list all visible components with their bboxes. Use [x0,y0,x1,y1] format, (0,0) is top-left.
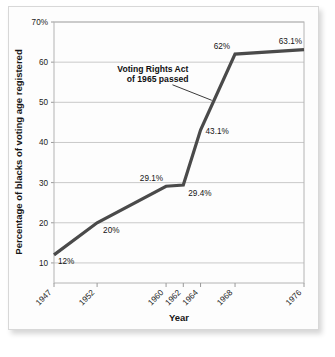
y-tick-labels-group: 10203040506070% [32,18,49,268]
chart-figure-card: 10203040506070% 194719521960196219641968… [8,6,319,330]
x-tick-label: 1952 [77,288,97,308]
y-tick-label: 30 [39,179,49,188]
plot-frame [54,22,304,283]
annotation-line-2: of 1965 passed [127,74,189,84]
data-point-label: 29.1% [140,174,163,183]
voting-registration-line-chart: 10203040506070% 194719521960196219641968… [9,7,318,329]
y-tick-label: 20 [39,219,49,228]
x-tick-marks-group [54,283,304,287]
annotation-group: Voting Rights Act of 1965 passed [117,64,211,101]
x-tick-label: 1960 [146,288,166,308]
data-point-label: 63.1% [279,37,302,46]
y-tick-label: 50 [39,98,49,107]
annotation-leader-line [172,85,211,101]
data-point-label: 43.1% [206,127,229,136]
y-axis-title: Percentage of blacks of voting age regis… [13,49,24,255]
plot-border [54,22,304,283]
x-tick-label: 1976 [284,288,304,308]
data-point-label: 12% [58,257,74,266]
annotation-line-1: Voting Rights Act [117,64,188,74]
data-point-label: 62% [214,42,230,51]
y-tick-label: 60 [39,58,49,67]
x-tick-label: 1968 [215,288,235,308]
x-tick-label: 1964 [181,288,201,308]
data-point-label: 29.4% [188,189,211,198]
x-tick-label: 1962 [163,288,183,308]
gridlines-group [51,22,304,263]
x-tick-label: 1947 [34,288,54,308]
y-tick-label: 70% [32,18,48,27]
x-tick-labels-group: 1947195219601962196419681976 [34,288,304,308]
y-tick-label: 40 [39,138,49,147]
data-point-label: 20% [103,226,119,235]
y-tick-label: 10 [39,259,49,268]
x-axis-title: Year [169,312,189,323]
